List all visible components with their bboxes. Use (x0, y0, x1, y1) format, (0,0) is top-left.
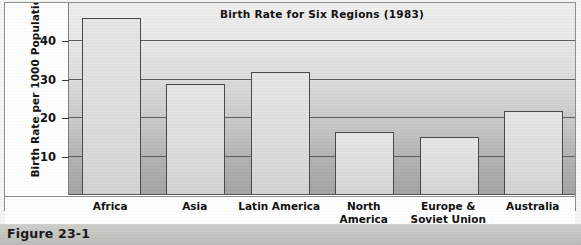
y-axis-tick-mark (62, 157, 69, 158)
x-axis-tick-label: Europe & Soviet Union (406, 200, 491, 225)
x-axis-tick-label: Asia (153, 200, 238, 213)
bar (504, 111, 563, 195)
y-axis-tick-label: 30 (30, 74, 56, 86)
figure-container: Birth Rate for Six Regions (1983) Birth … (0, 0, 581, 245)
gridline (69, 156, 575, 157)
bar (166, 84, 225, 195)
plot-area: Birth Rate for Six Regions (1983) (68, 3, 575, 195)
bar (420, 137, 479, 195)
bar (82, 18, 141, 195)
y-axis-tick-label: 40 (30, 35, 56, 47)
y-axis-tick-label: 20 (30, 112, 56, 124)
x-axis-tick-label: North America (322, 200, 407, 225)
plot-inner (69, 3, 575, 195)
x-axis-tick-label: Australia (491, 200, 576, 213)
bar (335, 132, 394, 195)
x-axis-tick-label: Latin America (237, 200, 322, 213)
gridline (69, 79, 575, 80)
y-axis-tick-mark (62, 80, 69, 81)
y-axis-label-box: Birth Rate per 1000 Population (5, 3, 67, 210)
x-axis-tick-label: Africa (68, 200, 153, 213)
axis-baseline (69, 194, 575, 195)
y-axis-tick-label: 10 (30, 151, 56, 163)
gridline (69, 117, 575, 118)
figure-caption: Figure 23-1 (7, 226, 90, 241)
bar (251, 72, 310, 195)
y-axis-tick-mark (62, 41, 69, 42)
chart-title: Birth Rate for Six Regions (1983) (69, 8, 575, 20)
y-axis-tick-mark (62, 118, 69, 119)
gridline (69, 40, 575, 41)
